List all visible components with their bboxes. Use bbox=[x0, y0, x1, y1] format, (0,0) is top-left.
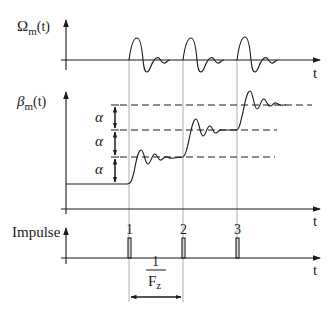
impulse-pulse-3 bbox=[236, 238, 239, 258]
omega-oscillation-1 bbox=[129, 38, 170, 72]
period-denominator: Fz bbox=[148, 273, 161, 291]
vertical-guide-lines bbox=[129, 60, 237, 302]
impulse-pulse-2 bbox=[182, 238, 185, 258]
impulse-x-label: t bbox=[313, 262, 318, 278]
impulse-y-label: Impulse bbox=[12, 224, 61, 240]
stepper-motor-response-diagram: Ωm(t) t βm(t) α α α t bbox=[0, 0, 334, 317]
beta-y-label: βm(t) bbox=[16, 93, 47, 112]
alpha-label-low: α bbox=[95, 161, 104, 177]
omega-x-label: t bbox=[313, 65, 318, 81]
omega-oscillation-3 bbox=[237, 37, 278, 72]
alpha-label-top: α bbox=[95, 109, 104, 125]
impulse-label-1: 1 bbox=[126, 222, 133, 237]
bottom-plot-impulse bbox=[61, 228, 320, 297]
omega-y-label: Ωm(t) bbox=[17, 18, 50, 37]
beta-x-label: t bbox=[313, 213, 318, 229]
impulse-pulse-1 bbox=[128, 238, 131, 258]
impulse-label-3: 3 bbox=[234, 222, 241, 237]
period-numerator: 1 bbox=[152, 254, 159, 269]
omega-oscillation-2 bbox=[183, 38, 224, 72]
impulse-label-2: 2 bbox=[180, 222, 187, 237]
alpha-dimension-arrows bbox=[111, 105, 119, 182]
top-plot-omega bbox=[61, 20, 320, 72]
alpha-label-mid: α bbox=[95, 133, 104, 149]
level-dashed-lines bbox=[120, 105, 312, 157]
